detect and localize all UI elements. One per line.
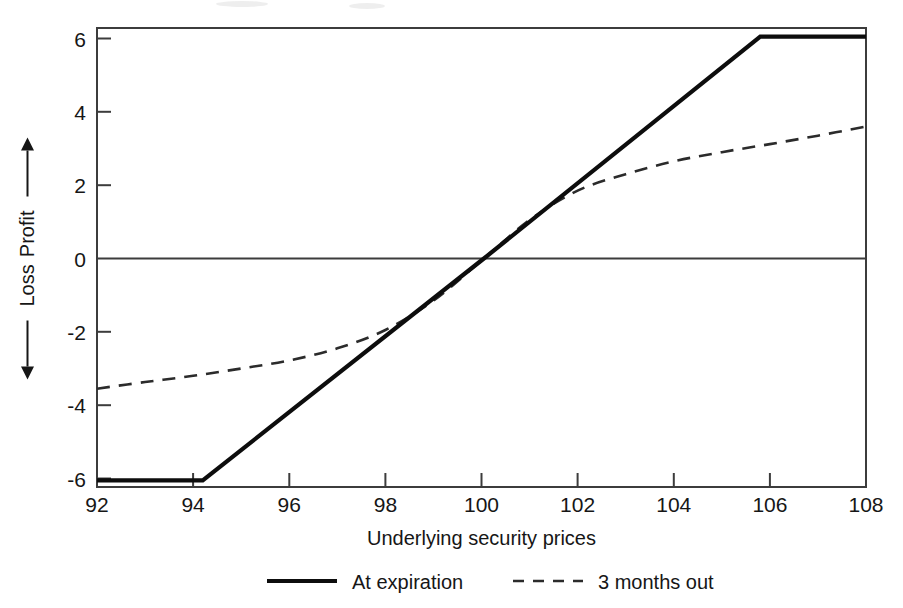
legend-label-at-expiration: At expiration — [352, 571, 463, 593]
y-tick-label-2: 2 — [74, 174, 86, 197]
y-tick-label-0: 0 — [74, 248, 86, 271]
x-tick-label-94: 94 — [181, 493, 205, 516]
x-tick-label-92: 92 — [85, 493, 108, 516]
y-tick-label-minus2: -2 — [67, 321, 86, 344]
x-tick-label-108: 108 — [848, 493, 883, 516]
y-axis-title-group: Profit Loss — [16, 138, 38, 380]
chart-legend: At expiration 3 months out — [267, 571, 714, 593]
y-tick-label-6: 6 — [74, 28, 86, 51]
x-tick-label-96: 96 — [278, 493, 301, 516]
y-axis-title-profit: Profit — [16, 210, 38, 257]
loss-arrow-icon — [21, 321, 34, 380]
x-tick-label-102: 102 — [560, 493, 595, 516]
option-profit-chart: 6 4 2 0 -2 -4 -6 — [0, 0, 903, 608]
profit-arrow-icon — [21, 138, 34, 197]
x-tick-label-104: 104 — [656, 493, 691, 516]
y-tick-label-minus6: -6 — [67, 468, 86, 491]
x-tick-label-98: 98 — [374, 493, 397, 516]
y-axis-title-loss: Loss — [16, 264, 38, 306]
chart-svg: 6 4 2 0 -2 -4 -6 — [0, 0, 903, 608]
x-tick-label-106: 106 — [752, 493, 787, 516]
scan-artifact — [216, 1, 385, 9]
x-axis-title: Underlying security prices — [367, 527, 596, 549]
y-tick-label-4: 4 — [74, 101, 86, 124]
legend-label-3-months-out: 3 months out — [598, 571, 714, 593]
x-tick-label-100: 100 — [464, 493, 499, 516]
y-axis: 6 4 2 0 -2 -4 -6 — [67, 28, 866, 491]
y-tick-label-minus4: -4 — [67, 394, 86, 417]
